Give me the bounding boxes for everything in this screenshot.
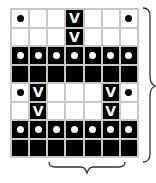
chart-cell — [103, 10, 119, 27]
chart-cell: V — [103, 84, 119, 101]
chart-cell — [121, 29, 137, 46]
chart-cell — [121, 66, 137, 83]
chart-cell — [85, 10, 101, 27]
dot-icon — [125, 126, 132, 133]
bottom-brace — [47, 161, 127, 175]
chart-cell — [121, 10, 137, 27]
dot-icon — [17, 89, 24, 96]
knitting-chart-grid: VVVVVV — [10, 8, 139, 158]
slip-stitch-v-icon: V — [33, 104, 44, 118]
chart-cell — [85, 29, 101, 46]
chart-cell — [48, 121, 64, 138]
dot-icon — [17, 52, 24, 59]
chart-cell — [85, 140, 101, 157]
chart-cell — [121, 103, 137, 120]
chart-cell — [12, 84, 28, 101]
dot-icon — [125, 52, 132, 59]
chart-cell — [66, 121, 82, 138]
dot-icon — [107, 126, 114, 133]
slip-stitch-v-icon: V — [69, 11, 80, 25]
chart-cell — [30, 29, 46, 46]
chart-cell — [85, 103, 101, 120]
chart-cell — [48, 29, 64, 46]
right-brace — [140, 6, 156, 166]
chart-cell — [12, 103, 28, 120]
chart-cell — [12, 10, 28, 27]
dot-icon — [35, 52, 42, 59]
chart-cell: V — [66, 10, 82, 27]
chart-cell: V — [66, 29, 82, 46]
chart-cell — [103, 121, 119, 138]
chart-cell — [121, 140, 137, 157]
chart-cell — [85, 66, 101, 83]
chart-cell — [66, 47, 82, 64]
chart-cell — [48, 103, 64, 120]
chart-cell: V — [30, 84, 46, 101]
chart-cell — [30, 10, 46, 27]
chart-cell — [103, 66, 119, 83]
chart-cell: V — [103, 103, 119, 120]
chart-cell — [48, 66, 64, 83]
chart-cell — [66, 66, 82, 83]
chart-cell — [12, 140, 28, 157]
chart-cell — [103, 29, 119, 46]
dot-icon — [71, 126, 78, 133]
chart-cell — [66, 84, 82, 101]
slip-stitch-v-icon: V — [105, 85, 116, 99]
dot-icon — [53, 126, 60, 133]
chart-cell — [12, 47, 28, 64]
slip-stitch-v-icon: V — [33, 85, 44, 99]
chart-cell — [85, 84, 101, 101]
chart-cell — [121, 47, 137, 64]
chart-cell — [66, 140, 82, 157]
chart-cell — [30, 47, 46, 64]
chart-cell — [12, 121, 28, 138]
chart-cell — [66, 103, 82, 120]
chart-cell — [12, 66, 28, 83]
dot-icon — [89, 126, 96, 133]
chart-cell — [30, 66, 46, 83]
chart-cell — [121, 84, 137, 101]
dot-icon — [71, 52, 78, 59]
chart-cell — [103, 140, 119, 157]
chart-cell — [103, 47, 119, 64]
dot-icon — [107, 52, 114, 59]
chart-cell: V — [30, 103, 46, 120]
dot-icon — [53, 52, 60, 59]
dot-icon — [89, 52, 96, 59]
dot-icon — [17, 15, 24, 22]
slip-stitch-v-icon: V — [69, 30, 80, 44]
chart-cell — [121, 121, 137, 138]
dot-icon — [125, 15, 132, 22]
chart-cell — [30, 140, 46, 157]
chart-cell — [30, 121, 46, 138]
chart-cell — [48, 140, 64, 157]
chart-cell — [48, 10, 64, 27]
dot-icon — [17, 126, 24, 133]
slip-stitch-v-icon: V — [105, 104, 116, 118]
chart-cell — [48, 84, 64, 101]
chart-cell — [12, 29, 28, 46]
chart-cell — [85, 121, 101, 138]
chart-cell — [85, 47, 101, 64]
chart-cell — [48, 47, 64, 64]
dot-icon — [35, 126, 42, 133]
dot-icon — [125, 89, 132, 96]
